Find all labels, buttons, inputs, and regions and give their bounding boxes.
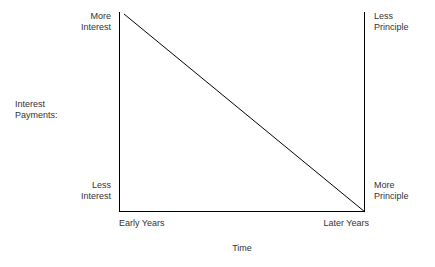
data-series-svg — [119, 12, 365, 212]
interest-payments-chart: More Interest Less Interest Less Princip… — [0, 0, 435, 267]
plot-area — [119, 12, 365, 212]
secondary-axis-top-label: Less Principle — [374, 11, 409, 33]
x-axis-tick-end: Later Years — [323, 218, 369, 229]
interest-decline-line — [124, 14, 365, 212]
secondary-axis-bottom-label: More Principle — [374, 180, 409, 202]
x-axis-title: Time — [119, 243, 365, 254]
y-axis-bottom-label: Less Interest — [81, 180, 111, 202]
y-axis-title: Interest Payments: — [15, 99, 58, 121]
y-axis-top-label: More Interest — [81, 11, 111, 33]
x-axis-tick-start: Early Years — [119, 218, 165, 229]
